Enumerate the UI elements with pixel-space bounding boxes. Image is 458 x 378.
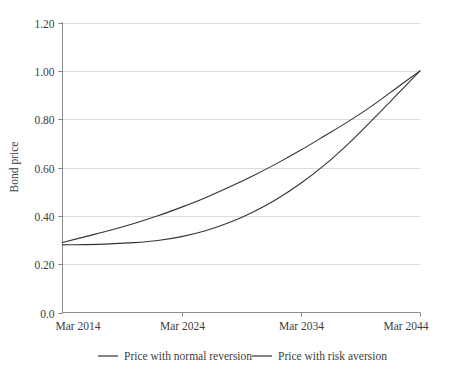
bond-price-line-chart: 0.00.200.400.600.801.001.20 Mar 2014Mar …	[0, 0, 458, 378]
y-tick-label: 1.20	[34, 18, 54, 30]
y-tick-label: 0.80	[34, 114, 54, 126]
y-axis-title: Bond price	[8, 142, 21, 193]
legend-label-1: Price with risk aversion	[278, 350, 387, 362]
y-tick-label: 0.0	[40, 308, 55, 320]
y-tick-label: 0.40	[34, 211, 54, 223]
chart-legend: Price with normal reversionPrice with ri…	[98, 350, 387, 362]
y-tick-label: 0.20	[34, 259, 54, 271]
y-tick-label: 1.00	[34, 66, 54, 78]
y-tick-label: 0.60	[34, 163, 54, 175]
x-tick-label: Mar 2014	[56, 320, 101, 332]
x-tick-label: Mar 2044	[383, 320, 428, 332]
legend-label-0: Price with normal reversion	[124, 350, 252, 362]
chart-figure: 0.00.200.400.600.801.001.20 Mar 2014Mar …	[0, 0, 458, 378]
x-tick-label: Mar 2034	[279, 320, 324, 332]
x-tick-label: Mar 2024	[160, 320, 205, 332]
